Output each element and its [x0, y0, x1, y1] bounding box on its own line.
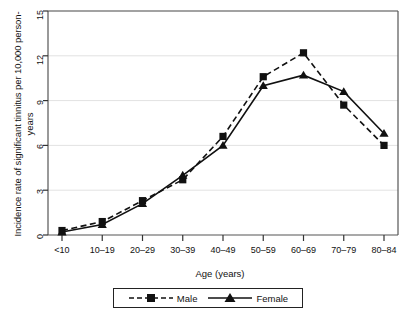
chart-figure: Incidence rate of significant tinnitus p…: [0, 0, 415, 316]
y-tick-label: 6: [35, 144, 45, 166]
legend-label-female: Female: [256, 293, 288, 304]
y-tick-label: 9: [35, 100, 45, 122]
legend-item-male[interactable]: Male: [128, 292, 198, 304]
y-tick-label: 15: [35, 10, 45, 32]
chart-legend: Male Female: [113, 288, 303, 308]
legend-item-female[interactable]: Female: [207, 292, 288, 304]
x-axis-label: Age (years): [45, 268, 395, 279]
legend-swatch-male-dashed-square: [128, 292, 174, 304]
series-line-female: [62, 75, 384, 232]
plot-area: [0, 0, 415, 260]
data-point-female-6: [299, 71, 308, 79]
data-point-female-7: [339, 87, 348, 95]
y-tick-label: 12: [35, 55, 45, 77]
data-point-male-8: [380, 142, 387, 149]
x-tick-label: 80–84: [360, 245, 408, 255]
data-point-male-4: [219, 133, 226, 140]
y-tick-label: 3: [35, 189, 45, 211]
data-point-male-6: [300, 49, 307, 56]
legend-label-male: Male: [177, 293, 198, 304]
data-point-male-5: [260, 73, 267, 80]
data-point-male-7: [340, 101, 347, 108]
legend-swatch-female-solid-triangle: [207, 292, 253, 304]
